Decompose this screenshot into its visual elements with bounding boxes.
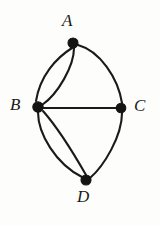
vertex-c [116, 103, 126, 113]
vertex-d [81, 175, 91, 185]
edge-b-d-left [38, 112, 82, 177]
vertex-label-c: C [134, 97, 145, 114]
edge-a-c [78, 45, 122, 103]
vertex-label-d: D [77, 188, 89, 205]
vertex-a [68, 38, 78, 48]
vertex-label-a: A [62, 12, 72, 29]
edge-group [36, 45, 122, 178]
vertex-b [33, 102, 43, 112]
graph-figure: A B C D [0, 0, 160, 225]
vertex-label-b: B [10, 96, 20, 113]
edge-a-b-right [42, 48, 74, 105]
edge-c-d [90, 113, 122, 178]
